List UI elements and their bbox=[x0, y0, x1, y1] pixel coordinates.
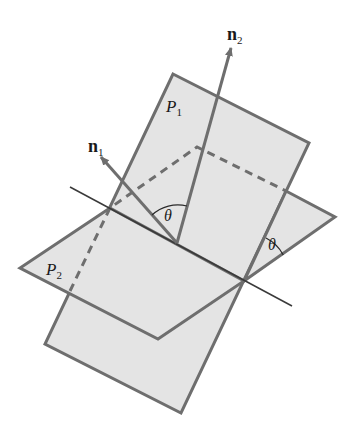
planes-diagram: P1 P2 n1 n2 θ θ bbox=[0, 0, 353, 441]
label-n1: n1 bbox=[88, 136, 104, 158]
label-theta-normals: θ bbox=[164, 207, 172, 224]
label-theta-planes: θ bbox=[268, 236, 276, 253]
label-n2: n2 bbox=[227, 24, 243, 46]
